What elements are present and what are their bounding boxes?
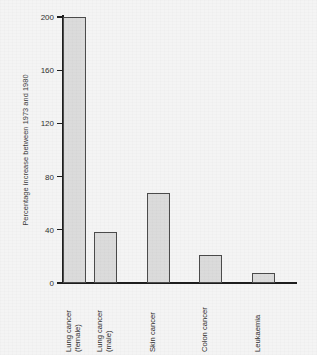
category-label-line1: Lung cancer: [95, 286, 104, 352]
bar: [63, 17, 86, 283]
category-label: Leukaemia: [253, 286, 273, 352]
y-tick-mark: [57, 282, 62, 283]
x-axis-category-labels: Lung cancer(female)Lung cancer(male)Skin…: [63, 286, 296, 354]
bar-chart-figure: Percentage increase between 1973 and 198…: [0, 0, 317, 355]
category-label-line1: Skin cancer: [148, 286, 157, 352]
y-tick-label: 120: [24, 119, 54, 128]
y-tick-label: 160: [24, 66, 54, 75]
y-tick-label: 80: [24, 172, 54, 181]
y-tick-mark: [57, 123, 62, 124]
y-tick-label: 200: [24, 13, 54, 22]
category-label: Colon cancer: [200, 286, 220, 352]
bar: [147, 193, 170, 283]
category-label-line1: Leukaemia: [253, 286, 262, 352]
category-label-line2: (female): [73, 286, 82, 352]
y-axis-title: Percentage increase between 1973 and 198…: [18, 17, 32, 283]
bar: [252, 273, 275, 283]
category-label: Lung cancer(male): [95, 286, 115, 352]
bar: [94, 232, 117, 283]
category-label-line1: Lung cancer: [64, 286, 73, 352]
bars-group: [63, 17, 296, 283]
category-label: Skin cancer: [148, 286, 168, 352]
y-tick-mark: [57, 70, 62, 71]
y-tick-label: 0: [24, 279, 54, 288]
bar: [199, 255, 222, 283]
category-label-line2: (male): [104, 286, 113, 352]
category-label-line1: Colon cancer: [200, 286, 209, 352]
y-tick-mark: [57, 16, 62, 17]
y-tick-mark: [57, 229, 62, 230]
category-label: Lung cancer(female): [64, 286, 84, 352]
y-tick-mark: [57, 176, 62, 177]
y-tick-label: 40: [24, 225, 54, 234]
